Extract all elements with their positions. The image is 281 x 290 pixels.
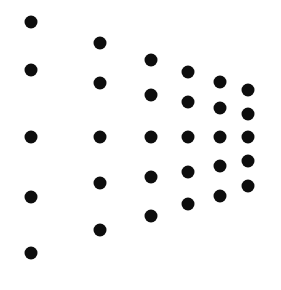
- dot: [242, 84, 255, 97]
- dot: [25, 247, 38, 260]
- dot: [182, 66, 195, 79]
- dot: [182, 96, 195, 109]
- dot-column-6: [242, 84, 255, 193]
- dot: [242, 155, 255, 168]
- dot: [145, 131, 158, 144]
- dot: [25, 131, 38, 144]
- dot: [25, 64, 38, 77]
- dot-column-3: [145, 54, 158, 223]
- dot-pattern-diagram: [0, 0, 281, 290]
- dot: [94, 37, 107, 50]
- dot: [145, 89, 158, 102]
- dot: [94, 224, 107, 237]
- dot: [214, 190, 227, 203]
- dot: [214, 102, 227, 115]
- dot: [145, 171, 158, 184]
- dot: [182, 166, 195, 179]
- dot-column-1: [25, 16, 38, 260]
- dot: [94, 177, 107, 190]
- dot: [214, 160, 227, 173]
- dot: [145, 210, 158, 223]
- dot: [242, 180, 255, 193]
- dot: [94, 131, 107, 144]
- dot: [214, 76, 227, 89]
- dot: [25, 16, 38, 29]
- dot: [214, 131, 227, 144]
- dot: [94, 77, 107, 90]
- dot-column-5: [214, 76, 227, 203]
- dot: [145, 54, 158, 67]
- dot: [182, 131, 195, 144]
- dot-column-4: [182, 66, 195, 211]
- dot: [182, 198, 195, 211]
- dot: [242, 108, 255, 121]
- dot: [25, 191, 38, 204]
- dot: [242, 131, 255, 144]
- dot-column-2: [94, 37, 107, 237]
